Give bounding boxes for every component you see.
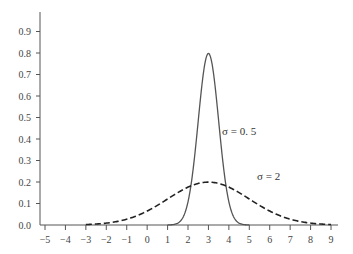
x-tick-label: 6 xyxy=(267,234,272,245)
x-tick-label: 4 xyxy=(226,234,231,245)
annotation-sigma-0-5: σ = 0. 5 xyxy=(222,125,257,137)
x-tick-label: 0 xyxy=(145,234,150,245)
annotation-sigma-2: σ = 2 xyxy=(257,170,280,182)
y-tick-label: 0.6 xyxy=(19,91,32,102)
x-tick-label: 3 xyxy=(206,234,211,245)
x-tick-label: 9 xyxy=(329,234,334,245)
axes: 0.00.10.20.30.40.50.60.70.80.9−5−4−3−2−1… xyxy=(19,12,339,245)
normal-distribution-chart: 0.00.10.20.30.40.50.60.70.80.9−5−4−3−2−1… xyxy=(0,0,353,254)
x-tick-label: −5 xyxy=(40,234,51,245)
x-tick-label: −4 xyxy=(60,234,71,245)
y-tick-label: 0.0 xyxy=(19,220,32,231)
x-tick-label: 2 xyxy=(186,234,191,245)
y-tick-label: 0.1 xyxy=(19,198,32,209)
y-tick-label: 0.8 xyxy=(19,48,32,59)
x-tick-label: 8 xyxy=(308,234,313,245)
curve-sigma-2 xyxy=(86,182,331,224)
y-tick-label: 0.5 xyxy=(19,112,32,123)
x-tick-label: 1 xyxy=(165,234,170,245)
x-tick-label: 7 xyxy=(288,234,293,245)
y-tick-label: 0.7 xyxy=(19,69,32,80)
y-tick-label: 0.4 xyxy=(19,134,32,145)
y-tick-label: 0.2 xyxy=(19,177,32,188)
x-tick-label: −1 xyxy=(121,234,132,245)
curve-sigma-0-5 xyxy=(168,53,250,224)
y-tick-label: 0.3 xyxy=(19,155,32,166)
x-tick-label: −3 xyxy=(81,234,92,245)
x-tick-label: −2 xyxy=(101,234,112,245)
x-tick-label: 5 xyxy=(247,234,252,245)
y-tick-label: 0.9 xyxy=(19,26,32,37)
curves xyxy=(86,53,331,224)
